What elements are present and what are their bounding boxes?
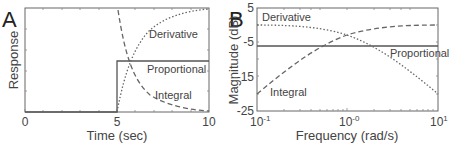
label-derivative-a: Derivative <box>149 28 198 40</box>
label-integral-b: Integral <box>270 86 307 98</box>
xtick-b-2: 101 <box>430 114 448 129</box>
ytick-b-1: -5 <box>243 35 254 49</box>
ylabel-b: Magnitude (dB) <box>226 16 241 105</box>
panel-letter-a: A <box>2 7 17 32</box>
xtick-a-1: 5 <box>114 115 121 129</box>
xlabel-b: Frequency (rad/s) <box>296 128 399 143</box>
label-derivative-b: Derivative <box>262 11 311 23</box>
xtick-a-0: 0 <box>22 115 29 129</box>
label-integral-a: Integral <box>155 89 192 101</box>
series-integral-b <box>257 25 438 94</box>
ytick-b-0: 5 <box>247 1 254 15</box>
label-proportional-a: Proportional <box>147 63 206 75</box>
panel-a: A Derivative Proportional Integral 0 5 1… <box>2 7 216 143</box>
figure: A Derivative Proportional Integral 0 5 1… <box>0 0 450 146</box>
xtick-b-1: 10-0 <box>339 114 360 129</box>
xtick-b-0: 10-1 <box>250 114 271 129</box>
panel-b: B Derivative Proportional Integral 5 -5 … <box>226 1 449 143</box>
xtick-a-2: 10 <box>202 115 216 129</box>
ylabel-a: Response <box>6 31 21 90</box>
label-proportional-b: Proportional <box>390 47 449 59</box>
xlabel-a: Time (sec) <box>87 128 148 143</box>
